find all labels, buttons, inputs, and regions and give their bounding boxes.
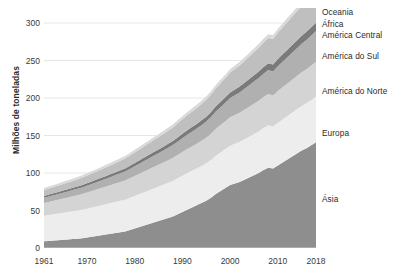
series-label-ásia: Ásia xyxy=(322,194,338,204)
y-tick-label: 250 xyxy=(14,56,40,66)
plot-area xyxy=(44,8,316,248)
y-tick-label: 50 xyxy=(14,206,40,216)
y-tick-label: 200 xyxy=(14,93,40,103)
y-tick-label: 300 xyxy=(14,18,40,28)
stacked-area-chart: Milhões de toneladas 050100150200250300 … xyxy=(0,0,405,277)
series-label-américa-do-sul: América do Sul xyxy=(322,51,379,61)
x-tick-label: 2018 xyxy=(307,256,326,266)
y-tick-label: 100 xyxy=(14,168,40,178)
series-label-oceania: Oceania xyxy=(322,7,353,17)
y-tick-label: 150 xyxy=(14,131,40,141)
x-tick-label: 2000 xyxy=(221,256,240,266)
x-tick-label: 1980 xyxy=(125,256,144,266)
y-tick-label: 0 xyxy=(14,243,40,253)
series-label-áfrica: África xyxy=(322,19,344,29)
series-label-europa: Europa xyxy=(322,128,349,138)
x-tick-label: 1961 xyxy=(35,256,54,266)
x-tick-label: 2010 xyxy=(268,256,287,266)
y-axis-ticks: 050100150200250300 xyxy=(0,0,40,277)
series-label-américa-central: América Central xyxy=(322,30,382,40)
series-label-américa-do-norte: América do Norte xyxy=(322,86,387,96)
x-tick-label: 1970 xyxy=(77,256,96,266)
x-tick-label: 1990 xyxy=(173,256,192,266)
